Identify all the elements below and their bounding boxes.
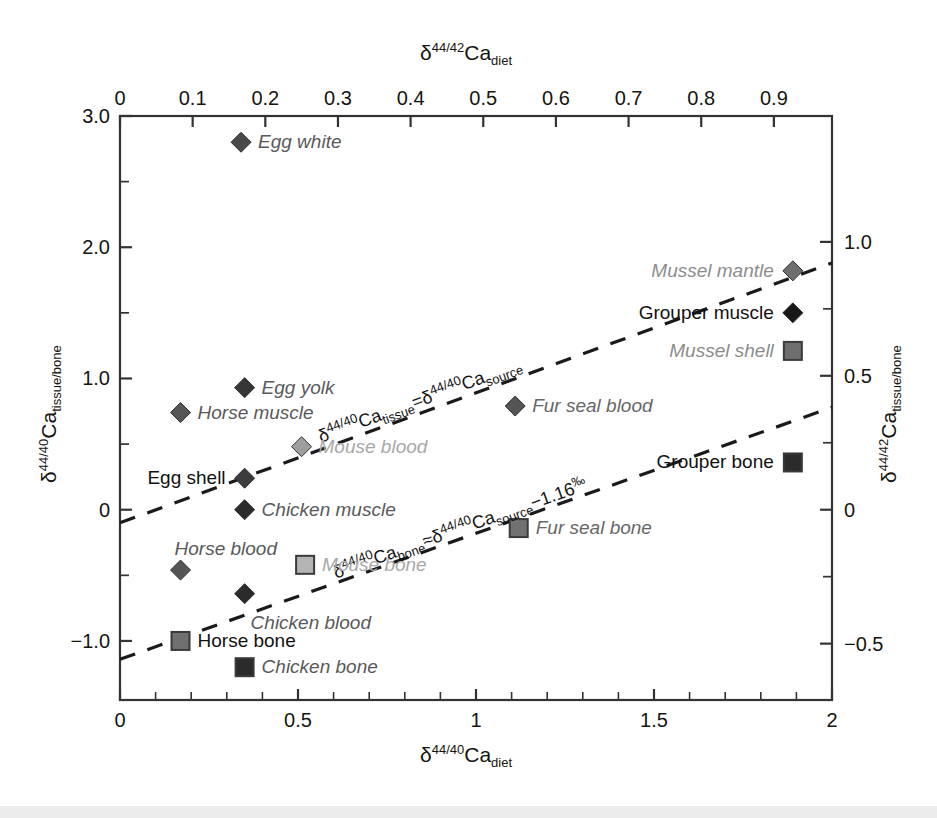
data-point-marker bbox=[171, 403, 191, 423]
data-point-label: Mussel mantle bbox=[651, 260, 774, 282]
data-point-label: Grouper muscle bbox=[639, 302, 774, 324]
data-point-label: Fur seal blood bbox=[532, 395, 652, 417]
data-point-marker bbox=[172, 632, 190, 650]
bottom-axis-tick-label: 0.5 bbox=[284, 709, 312, 732]
data-point-label: Grouper bone bbox=[657, 451, 774, 473]
data-point-marker bbox=[783, 303, 803, 323]
data-point-label: Mussel shell bbox=[669, 340, 774, 362]
left-axis-tick-label: 1.0 bbox=[82, 367, 110, 390]
data-point-label: Mouse bone bbox=[322, 554, 427, 576]
data-point-marker bbox=[505, 396, 525, 416]
data-point-marker bbox=[784, 453, 802, 471]
data-point-label: Horse blood bbox=[175, 538, 277, 560]
data-point-marker bbox=[236, 658, 254, 676]
right-axis-tick-label: −0.5 bbox=[844, 632, 883, 655]
right-axis-tick-label: 0 bbox=[844, 498, 855, 521]
data-point-label: Horse muscle bbox=[198, 402, 314, 424]
data-point-marker bbox=[783, 261, 803, 281]
top-axis-tick-label: 0.4 bbox=[397, 87, 425, 110]
left-axis-tick-label: 0 bbox=[99, 498, 110, 521]
data-point-marker bbox=[784, 342, 802, 360]
top-axis-tick-label: 0.8 bbox=[687, 87, 715, 110]
data-point-marker bbox=[235, 468, 255, 488]
data-point-label: Fur seal bone bbox=[536, 517, 652, 539]
data-point-label: Mouse blood bbox=[319, 436, 428, 458]
left-axis-tick-label: 2.0 bbox=[82, 236, 110, 259]
bottom-axis-tick-label: 2 bbox=[826, 709, 837, 732]
data-point-label: Chicken muscle bbox=[262, 499, 396, 521]
data-point-label: Egg white bbox=[258, 131, 341, 153]
data-point-label: Egg shell bbox=[147, 467, 225, 489]
top-axis-tick-label: 0.2 bbox=[251, 87, 279, 110]
bottom-axis-tick-label: 0 bbox=[114, 709, 125, 732]
data-point-marker bbox=[235, 378, 255, 398]
right-axis-tick-label: 0.5 bbox=[844, 364, 872, 387]
top-axis-tick-label: 0.6 bbox=[542, 87, 570, 110]
left-axis-tick-label: −1.0 bbox=[71, 629, 110, 652]
data-point-label: Chicken bone bbox=[262, 656, 378, 678]
top-axis-tick-label: 0.9 bbox=[760, 87, 788, 110]
left-axis-tick-label: 3.0 bbox=[82, 105, 110, 128]
top-axis-tick-label: 0.7 bbox=[615, 87, 643, 110]
data-point-label: Horse bone bbox=[198, 630, 296, 652]
right-axis-tick-label: 1.0 bbox=[844, 230, 872, 253]
data-point-marker bbox=[296, 556, 314, 574]
data-point-marker bbox=[171, 560, 191, 580]
data-point-marker bbox=[235, 584, 255, 604]
top-axis-tick-label: 0 bbox=[114, 87, 125, 110]
page-bottom-band bbox=[0, 806, 937, 818]
top-axis-tick-label: 0.3 bbox=[324, 87, 352, 110]
data-point-marker bbox=[292, 437, 312, 457]
plot-area bbox=[0, 0, 937, 818]
data-point-label: Egg yolk bbox=[262, 377, 335, 399]
bottom-axis-tick-label: 1 bbox=[470, 709, 481, 732]
top-axis-tick-label: 0.5 bbox=[469, 87, 497, 110]
data-point-marker bbox=[231, 132, 251, 152]
calcium-isotope-scatter-figure: δ44/42Cadiet δ44/40Cadiet δ44/40Catissue… bbox=[0, 0, 937, 818]
data-point-marker bbox=[235, 500, 255, 520]
bottom-axis-tick-label: 1.5 bbox=[640, 709, 668, 732]
top-axis-tick-label: 0.1 bbox=[179, 87, 207, 110]
